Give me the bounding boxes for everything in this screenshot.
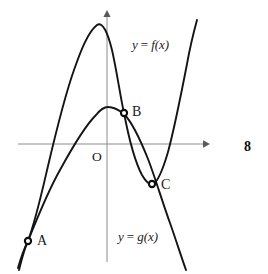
y-axis-arrow-icon <box>103 10 110 17</box>
curve-label-f-equals: = <box>141 37 148 52</box>
curve-label-f-y: y <box>132 37 138 52</box>
point-label-b: B <box>132 105 141 119</box>
figure-root: A B C O y=f(x) y=g(x) 8 <box>0 0 268 274</box>
curve-label-g-equals: = <box>127 229 134 244</box>
curve-label-f-fn: f(x) <box>151 37 169 52</box>
page-number: 8 <box>244 139 251 155</box>
origin-label: O <box>92 150 102 164</box>
point-marker-b <box>121 110 127 116</box>
curve-label-g-fn: g(x) <box>137 229 158 244</box>
point-label-a: A <box>37 234 47 248</box>
point-label-c: C <box>161 178 170 192</box>
curve-label-g-y: y <box>118 229 124 244</box>
point-marker-c <box>149 181 155 187</box>
curve-label-f: y=f(x) <box>132 38 169 51</box>
curve-label-g: y=g(x) <box>118 230 158 243</box>
point-marker-a <box>25 238 31 244</box>
x-axis-arrow-icon <box>203 140 210 148</box>
